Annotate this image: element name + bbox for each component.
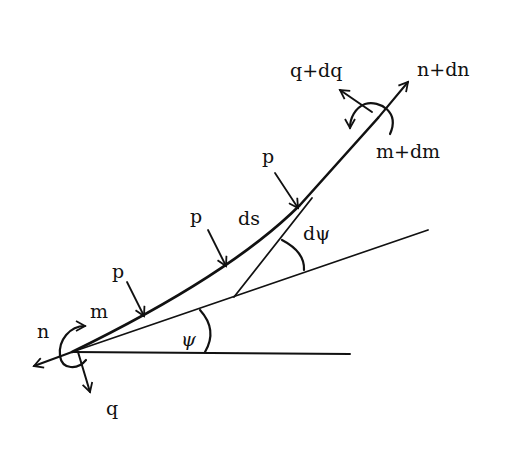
beam-curve bbox=[72, 118, 378, 352]
label-n-plus-dn: n+dn bbox=[417, 58, 470, 80]
p-load-arrow-1 bbox=[127, 282, 144, 316]
label-q-plus-dq: q+dq bbox=[290, 59, 342, 81]
label-p-1: p bbox=[112, 260, 124, 282]
psi-angle-arc bbox=[200, 310, 210, 352]
p-load-arrow-3 bbox=[275, 173, 298, 208]
label-dpsi: dψ bbox=[303, 222, 330, 244]
q-plus-dq-arrow bbox=[340, 90, 372, 112]
label-m-plus-dm: m+dm bbox=[376, 140, 440, 162]
label-p-2: p bbox=[190, 205, 202, 227]
label-ds: ds bbox=[238, 207, 260, 229]
n-arrow bbox=[34, 352, 72, 366]
p-load-arrow-2 bbox=[208, 230, 226, 266]
label-p-3: p bbox=[262, 145, 274, 167]
dpsi-angle-arc bbox=[282, 240, 304, 270]
beam-element-diagram: q+dq n+dn m+dm p p p ds dψ ψ n m q bbox=[0, 0, 506, 455]
label-q: q bbox=[106, 397, 118, 419]
label-psi: ψ bbox=[181, 328, 197, 350]
n-plus-dn-arrow bbox=[378, 82, 408, 118]
label-m: m bbox=[90, 300, 108, 322]
horizontal-reference-line bbox=[72, 352, 350, 354]
m-plus-dm-moment-arc bbox=[350, 103, 393, 134]
label-n: n bbox=[37, 320, 49, 342]
q-arrow bbox=[78, 352, 90, 392]
